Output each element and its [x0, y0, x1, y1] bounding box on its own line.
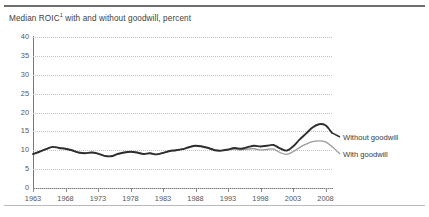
x-tick-mark-2008 [326, 188, 327, 192]
series-line-without-goodwill [33, 124, 332, 156]
x-tick-mark-1968 [66, 188, 67, 192]
x-tick-label-1973: 1973 [90, 194, 106, 203]
gridline-0 [33, 188, 332, 189]
plot-area [33, 37, 332, 188]
series-lines [33, 37, 332, 188]
y-tick-label-5: 5 [7, 164, 29, 173]
chart-title-main: Median ROIC [9, 14, 60, 23]
exhibit-figure: Median ROIC1 with and without goodwill, … [0, 0, 429, 217]
y-tick-label-40: 40 [7, 32, 29, 41]
x-tick-label-1978: 1978 [122, 194, 138, 203]
x-tick-label-1988: 1988 [187, 194, 203, 203]
leader-line-0 [332, 133, 340, 137]
series-label-without-goodwill: Without goodwill [343, 133, 398, 142]
x-tick-label-1993: 1993 [220, 194, 236, 203]
y-tick-label-30: 30 [7, 70, 29, 79]
x-tick-mark-1963 [33, 188, 34, 192]
y-tick-label-20: 20 [7, 108, 29, 117]
x-tick-mark-1973 [98, 188, 99, 192]
y-tick-label-10: 10 [7, 145, 29, 154]
x-tick-label-1983: 1983 [155, 194, 171, 203]
x-tick-mark-1988 [196, 188, 197, 192]
y-tick-label-15: 15 [7, 126, 29, 135]
x-tick-label-1968: 1968 [57, 194, 73, 203]
x-tick-label-1998: 1998 [252, 194, 268, 203]
series-label-with-goodwill: With goodwill [343, 150, 388, 159]
y-tick-label-35: 35 [7, 51, 29, 60]
y-tick-label-25: 25 [7, 89, 29, 98]
chart-title-rest: with and without goodwill, percent [63, 14, 191, 23]
x-tick-mark-1993 [228, 188, 229, 192]
x-tick-label-2008: 2008 [317, 194, 333, 203]
leader-line-1 [332, 147, 340, 155]
x-tick-mark-1998 [261, 188, 262, 192]
y-tick-label-0: 0 [7, 183, 29, 192]
x-tick-mark-1978 [131, 188, 132, 192]
x-tick-label-2003: 2003 [285, 194, 301, 203]
x-tick-label-1963: 1963 [25, 194, 41, 203]
chart-title: Median ROIC1 with and without goodwill, … [9, 14, 191, 23]
y-axis-labels: 0510152025303540 [5, 37, 29, 188]
x-tick-mark-1983 [163, 188, 164, 192]
x-tick-mark-2003 [293, 188, 294, 192]
bottom-divider [4, 205, 425, 206]
top-divider [4, 5, 425, 7]
